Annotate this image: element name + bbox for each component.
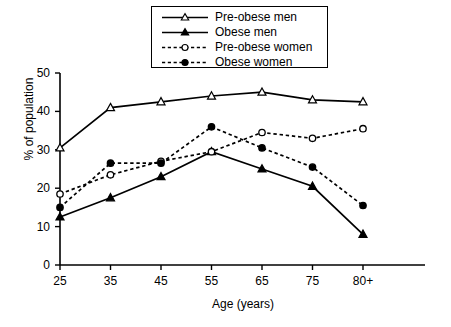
data-point-marker [208,149,214,155]
data-point-marker [259,145,265,151]
legend-entry-pre-obese-women: Pre-obese women [152,40,329,55]
legend-label: Pre-obese women [215,40,312,55]
data-point-marker [57,191,63,197]
x-tick-label: 75 [293,275,333,287]
data-point-marker [208,124,214,130]
x-tick-label: 55 [192,275,232,287]
legend-label: Obese men [215,25,277,40]
data-point-marker [309,164,315,170]
series-line [60,127,363,208]
legend-label: Pre-obese men [215,10,297,25]
x-tick-label: 45 [141,275,181,287]
data-point-marker [107,172,113,178]
series-line [60,152,363,235]
y-tick-label: 50 [24,67,50,79]
open-triangle-marker-icon [160,10,210,25]
y-tick-label: 30 [24,144,50,156]
x-tick-label: 80+ [343,275,383,287]
data-point-marker [360,202,366,208]
filled-circle-marker-icon [160,55,210,70]
data-point-marker [360,126,366,132]
y-tick-label: 40 [24,105,50,117]
open-circle-marker-icon [160,40,210,55]
y-tick-label: 10 [24,221,50,233]
x-tick-label: 35 [91,275,131,287]
legend-entry-obese-men: Obese men [152,25,329,40]
y-tick-label: 20 [24,182,50,194]
data-point-marker [259,129,265,135]
legend-entry-obese-women: Obese women [152,55,329,70]
series-line [60,92,363,148]
series-line [60,129,363,194]
data-point-marker [158,160,164,166]
legend-label: Obese women [215,55,292,70]
x-tick-label: 65 [242,275,282,287]
filled-triangle-marker-icon [160,25,210,40]
data-point-marker [309,135,315,141]
data-point-marker [57,204,63,210]
chart-figure: % of population Age (years) 01020304050 … [0,0,451,327]
legend-entry-pre-obese-men: Pre-obese men [152,10,329,25]
x-tick-label: 25 [40,275,80,287]
chart-legend: Pre-obese men Obese men Pre-obese women … [151,6,328,68]
x-axis-title: Age (years) [60,297,426,311]
y-tick-label: 0 [24,259,50,271]
data-point-marker [107,160,113,166]
